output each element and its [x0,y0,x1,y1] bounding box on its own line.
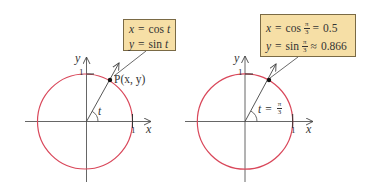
left-radius-arrow [87,63,120,122]
left-point-label: P(x, y) [114,73,145,85]
right-angle-label: t = π 3 [258,101,285,116]
right-tick-x-label: 1 [291,125,296,135]
right-y-axis-label: y [234,51,239,66]
left-y-axis-label: y [75,51,80,66]
left-equation-y: y = sin t [129,36,175,51]
right-x-axis-label: x [306,122,311,137]
left-equation-x: x = cos t [129,21,175,36]
left-equation-box: x = cos t y = sin t [123,19,176,51]
left-unit-circle-panel [25,51,151,182]
left-x-axis-label: x [146,122,151,137]
right-equation-y: y = sin π 3 ≈ 0.866 [266,37,355,55]
right-equation-x: x = cos π 3 = 0.5 [266,19,355,37]
right-angle-arc [251,111,257,121]
right-tick-y-label: 1 [238,67,243,77]
right-equation-box: x = cos π 3 = 0.5 y = sin π 3 ≈ 0.866 [260,14,356,57]
left-point-p [108,78,112,82]
right-unit-circle-panel [185,56,313,182]
left-tick-x-label: 1 [131,125,136,135]
left-tick-y-label: 1 [79,67,84,77]
right-point [267,78,271,82]
left-angle-label: t [98,105,101,117]
